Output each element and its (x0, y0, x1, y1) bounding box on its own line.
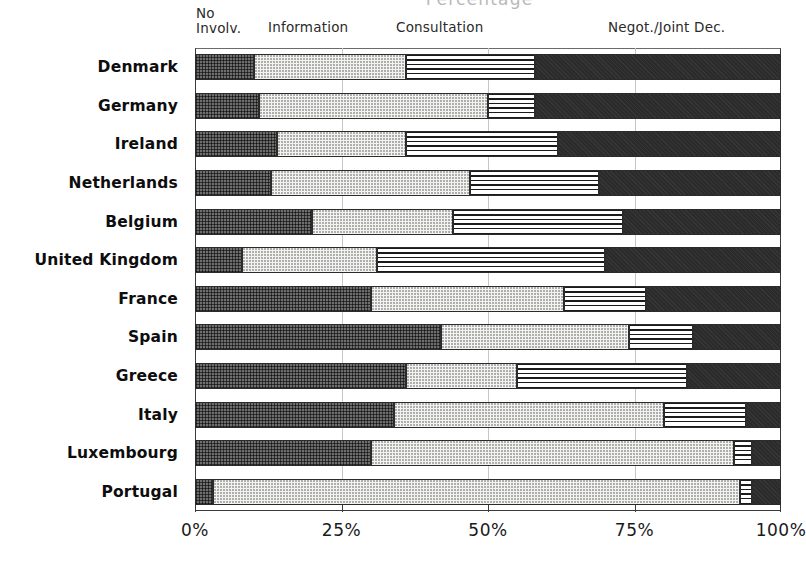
bar-segment[interactable] (599, 170, 781, 196)
y-axis-label-france: France (118, 290, 178, 308)
bar-row[interactable] (195, 363, 781, 389)
bar-segment[interactable] (394, 402, 664, 428)
bar-row[interactable] (195, 402, 781, 428)
bar-segment[interactable] (195, 440, 371, 466)
bar-segment[interactable] (629, 324, 693, 350)
bar-segment[interactable] (254, 54, 406, 80)
bar-segment[interactable] (453, 209, 623, 235)
bar-segment[interactable] (558, 131, 781, 157)
legend-headers: No Involv.InformationConsultationNegot./… (0, 6, 799, 46)
x-axis-labels: 0%25%50%75%100% (0, 520, 799, 550)
bar-segment[interactable] (488, 93, 535, 119)
bar-row[interactable] (195, 479, 781, 505)
y-axis-label-greece: Greece (116, 367, 178, 385)
legend-label-1: Information (268, 20, 348, 35)
bar-segment[interactable] (564, 286, 646, 312)
x-axis-label-100: 100% (756, 520, 806, 540)
y-axis-label-portugal: Portugal (101, 483, 178, 501)
bar-segment[interactable] (746, 402, 781, 428)
bar-segment[interactable] (406, 54, 535, 80)
bar-segment[interactable] (646, 286, 781, 312)
y-axis-label-spain: Spain (128, 328, 178, 346)
bar-row[interactable] (195, 209, 781, 235)
bar-segment[interactable] (259, 93, 488, 119)
bar-row[interactable] (195, 170, 781, 196)
bar-segment[interactable] (470, 170, 599, 196)
bar-segment[interactable] (242, 247, 377, 273)
plot-area (195, 48, 781, 511)
x-axis-label-75: 75% (615, 520, 654, 540)
y-axis-label-luxembourg: Luxembourg (67, 444, 178, 462)
bar-segment[interactable] (195, 402, 394, 428)
bar-segment[interactable] (406, 131, 558, 157)
legend-label-3: Negot./Joint Dec. (608, 20, 725, 35)
bar-row[interactable] (195, 324, 781, 350)
bar-segment[interactable] (535, 93, 781, 119)
y-axis-label-italy: Italy (138, 406, 178, 424)
bar-row[interactable] (195, 286, 781, 312)
bar-segment[interactable] (687, 363, 781, 389)
bar-segment[interactable] (277, 131, 406, 157)
bar-segment[interactable] (664, 402, 746, 428)
bar-row[interactable] (195, 131, 781, 157)
bar-segment[interactable] (535, 54, 781, 80)
bar-row[interactable] (195, 440, 781, 466)
bar-segment[interactable] (312, 209, 453, 235)
y-axis-label-netherlands: Netherlands (69, 174, 178, 192)
bar-segment[interactable] (740, 479, 752, 505)
bar-segment[interactable] (752, 440, 781, 466)
bar-segment[interactable] (377, 247, 606, 273)
bar-segment[interactable] (195, 131, 277, 157)
bar-segment[interactable] (271, 170, 470, 196)
legend-label-0: No Involv. (196, 6, 241, 35)
y-axis-label-belgium: Belgium (105, 213, 178, 231)
x-axis-label-0: 0% (181, 520, 209, 540)
bar-segment[interactable] (195, 479, 213, 505)
bar-row[interactable] (195, 54, 781, 80)
bar-segment[interactable] (406, 363, 517, 389)
bar-segment[interactable] (605, 247, 781, 273)
bar-segment[interactable] (734, 440, 752, 466)
y-axis-label-united-kingdom: United Kingdom (35, 251, 179, 269)
bar-segment[interactable] (371, 286, 564, 312)
y-axis-label-denmark: Denmark (98, 58, 178, 76)
bar-segment[interactable] (213, 479, 740, 505)
bar-segment[interactable] (195, 286, 371, 312)
bar-segment[interactable] (371, 440, 734, 466)
y-axis-label-germany: Germany (98, 97, 178, 115)
x-axis-label-25: 25% (322, 520, 361, 540)
bar-row[interactable] (195, 93, 781, 119)
bar-segment[interactable] (517, 363, 687, 389)
bar-segment[interactable] (752, 479, 781, 505)
bar-segment[interactable] (195, 170, 271, 196)
bar-segment[interactable] (195, 54, 254, 80)
bar-segment[interactable] (195, 93, 259, 119)
bar-segment[interactable] (693, 324, 781, 350)
bar-segment[interactable] (195, 324, 441, 350)
bar-segment[interactable] (195, 363, 406, 389)
bar-segment[interactable] (623, 209, 781, 235)
bar-row[interactable] (195, 247, 781, 273)
x-axis-label-50: 50% (468, 520, 507, 540)
bar-segment[interactable] (195, 247, 242, 273)
y-axis-label-ireland: Ireland (115, 135, 178, 153)
bar-segment[interactable] (441, 324, 629, 350)
legend-label-2: Consultation (396, 20, 483, 35)
bar-segment[interactable] (195, 209, 312, 235)
